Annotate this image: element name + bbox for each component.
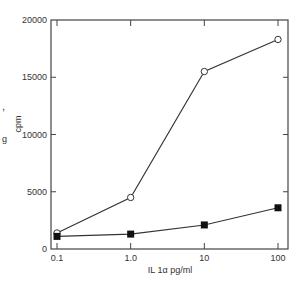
filled-square-marker — [54, 233, 61, 240]
x-tick-label: 10 — [199, 253, 209, 263]
y-tick-label: 5000 — [27, 187, 47, 197]
y-tick-label: 0 — [42, 244, 47, 254]
y-axis-ticks: 05000100001500020000 — [22, 15, 288, 254]
filled-square-marker — [201, 221, 208, 228]
data-series — [54, 36, 282, 240]
x-tick-label: 100 — [270, 253, 285, 263]
x-axis-ticks: 0.11.010100 — [51, 20, 286, 263]
plot-frame — [51, 20, 288, 249]
cropped-text-mark: g — [2, 134, 7, 144]
series-line — [57, 208, 278, 237]
y-tick-label: 10000 — [22, 130, 47, 140]
filled-square-marker — [275, 204, 282, 211]
x-tick-label: 0.1 — [51, 253, 64, 263]
series-line — [57, 39, 278, 233]
open-circle-marker — [275, 36, 281, 42]
filled-square-marker — [127, 231, 134, 238]
chart: 05000100001500020000 0.11.010100 IL 1α p… — [0, 0, 297, 284]
y-tick-label: 15000 — [22, 72, 47, 82]
cropped-text-mark: , — [2, 100, 5, 112]
y-axis-title: cpm — [13, 115, 23, 132]
open-circle-marker — [201, 68, 207, 74]
x-tick-label: 1.0 — [124, 253, 137, 263]
open-circle-marker — [127, 194, 133, 200]
x-axis-title: IL 1α pg/ml — [148, 265, 192, 275]
y-tick-label: 20000 — [22, 15, 47, 25]
